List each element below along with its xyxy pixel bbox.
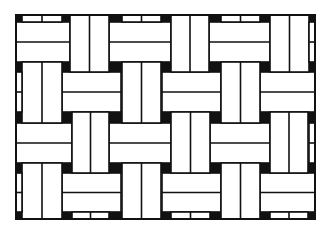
- gap-square: [161, 15, 171, 22]
- gap-square: [209, 15, 221, 22]
- weave-canvas: [0, 0, 332, 232]
- gap-square: [109, 112, 122, 123]
- gap-square: [210, 212, 221, 219]
- gap-square: [62, 163, 72, 173]
- gap-square: [161, 212, 171, 219]
- gap-square: [109, 163, 122, 173]
- gap-square: [109, 212, 122, 219]
- gap-square: [161, 163, 171, 173]
- basket-weave-diagram: Basket weave pattern: [0, 0, 332, 232]
- gap-square: [260, 62, 270, 72]
- gap-square: [260, 163, 270, 173]
- gap-square: [308, 112, 315, 123]
- gap-square: [308, 212, 315, 219]
- gap-square: [260, 15, 270, 22]
- gap-square: [62, 212, 72, 219]
- gap-square: [161, 62, 171, 72]
- gap-square: [62, 15, 70, 22]
- gap-square: [260, 112, 270, 123]
- gap-square: [260, 212, 270, 219]
- gap-square: [161, 112, 171, 123]
- gap-square: [62, 62, 70, 72]
- gap-square: [210, 112, 221, 123]
- gap-square: [109, 62, 122, 72]
- gap-square: [109, 15, 122, 22]
- gap-square: [210, 163, 221, 173]
- gap-square: [308, 163, 315, 173]
- gap-square: [209, 62, 221, 72]
- gap-square: [62, 112, 72, 123]
